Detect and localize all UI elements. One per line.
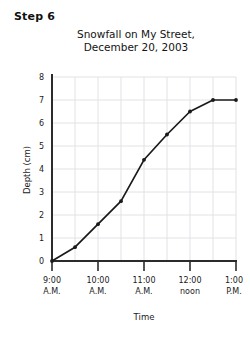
xtick-label-3-line1: 12:00 xyxy=(178,276,201,285)
ytick-label-2: 2 xyxy=(39,211,44,220)
ytick-label-7: 7 xyxy=(39,96,44,105)
chart-plot-area: 8 7 6 5 4 3 2 1 0 9:00 A.M. 10:00 A.M. 1… xyxy=(0,0,250,339)
xtick-label-0-line1: 9:00 xyxy=(43,276,61,285)
ytick-label-1: 1 xyxy=(39,234,44,243)
xtick-label-4-line1: 1:00 xyxy=(225,276,243,285)
data-point-5 xyxy=(165,133,169,137)
data-point-1 xyxy=(73,245,77,249)
data-point-0 xyxy=(50,259,54,263)
data-point-7 xyxy=(211,98,215,102)
xtick-label-2-line1: 11:00 xyxy=(132,276,155,285)
ytick-label-0: 0 xyxy=(39,257,44,266)
xtick-label-3-line2: noon xyxy=(180,287,200,296)
xtick-label-4-line2: P.M. xyxy=(226,287,242,296)
ytick-label-3: 3 xyxy=(39,188,44,197)
xtick-label-1-line1: 10:00 xyxy=(86,276,109,285)
data-point-4 xyxy=(142,158,146,162)
x-axis-title: Time xyxy=(133,312,155,322)
ytick-label-6: 6 xyxy=(39,119,44,128)
data-point-2 xyxy=(96,222,100,226)
x-axis-ticks xyxy=(52,261,236,271)
y-axis-tick-labels: 8 7 6 5 4 3 2 1 0 xyxy=(39,73,44,266)
line-chart-svg: 8 7 6 5 4 3 2 1 0 9:00 A.M. 10:00 A.M. 1… xyxy=(0,0,250,339)
data-point-8 xyxy=(234,98,238,102)
ytick-label-5: 5 xyxy=(39,142,44,151)
data-point-3 xyxy=(119,199,123,203)
ytick-label-8: 8 xyxy=(39,73,44,82)
screenshot-root: Step 6 Snowfall on My Street, December 2… xyxy=(0,0,250,339)
x-axis-tick-labels: 9:00 A.M. 10:00 A.M. 11:00 A.M. 12:00 no… xyxy=(43,276,243,296)
xtick-label-0-line2: A.M. xyxy=(43,287,60,296)
xtick-label-2-line2: A.M. xyxy=(135,287,152,296)
xtick-label-1-line2: A.M. xyxy=(89,287,106,296)
ytick-label-4: 4 xyxy=(39,165,44,174)
y-axis-title: Depth (cm) xyxy=(22,146,32,194)
data-point-6 xyxy=(188,110,192,114)
